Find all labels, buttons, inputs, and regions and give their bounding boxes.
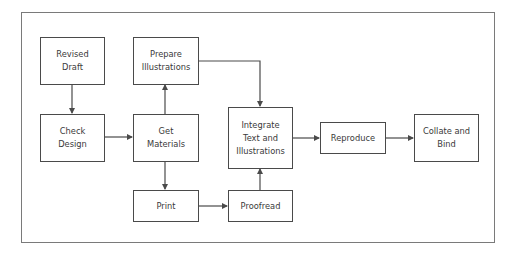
node-reproduce: Reproduce	[320, 122, 386, 154]
node-print: Print	[133, 190, 199, 222]
node-proofread: Proofread	[228, 190, 293, 222]
node-integrate: Integrate Text and Illustrations	[228, 107, 293, 169]
node-get-materials: Get Materials	[133, 114, 199, 162]
node-collate-bind: Collate and Bind	[414, 114, 479, 162]
edge-prepare-to-integrate	[198, 61, 260, 106]
node-revised-draft: Revised Draft	[40, 37, 105, 85]
node-prepare-illustrations: Prepare Illustrations	[133, 37, 199, 85]
node-check-design: Check Design	[40, 114, 105, 162]
